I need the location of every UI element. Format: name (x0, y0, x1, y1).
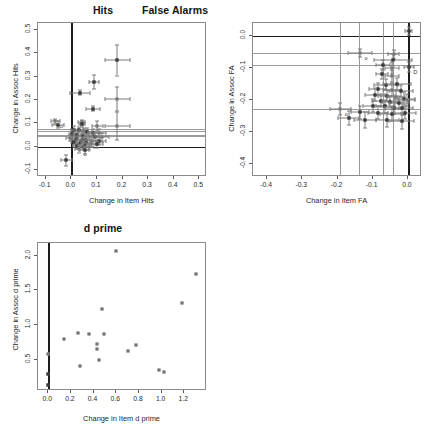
reference-line-horizontal (38, 131, 205, 132)
data-point (95, 342, 98, 345)
axis-tick-x (173, 176, 174, 179)
axis-tick-x (47, 390, 48, 393)
error-bar-cap (91, 128, 95, 129)
error-bar-cap (384, 78, 388, 79)
error-bar-cap (400, 101, 404, 102)
error-bar-cap (384, 106, 385, 110)
data-point (404, 111, 407, 114)
error-bar-cap (100, 107, 101, 111)
error-bar-cap (405, 94, 409, 95)
axis-tick-label-x: 0.3 (142, 181, 151, 188)
error-bar-cap (129, 58, 130, 62)
error-bar-cap (85, 122, 86, 126)
data-point (116, 124, 119, 127)
data-point (339, 107, 342, 110)
axis-title-x: Change in Item Hits (37, 196, 206, 205)
data-point (372, 104, 375, 107)
error-bar-cap (109, 135, 110, 139)
error-bar-cap (368, 111, 369, 115)
data-point (401, 107, 404, 110)
data-point (95, 143, 98, 146)
axis-tick-label-x: 0.1 (91, 181, 100, 188)
error-bar-cap (364, 93, 365, 97)
data-point (390, 75, 393, 78)
error-bar-cap (397, 96, 401, 97)
axis-tick-label-x: 0.5 (194, 181, 203, 188)
error-bar-cap (391, 54, 395, 55)
error-bar-cap (91, 110, 95, 111)
error-bar-cap (376, 82, 380, 83)
error-bar-cap (382, 88, 383, 92)
data-point (347, 116, 350, 119)
error-bar-cap (329, 107, 330, 111)
reference-line-vertical (48, 243, 50, 389)
axis-tick-x (115, 390, 116, 393)
error-bar-cap (97, 128, 101, 129)
axis-tick-label-y: 0.2 (24, 92, 31, 106)
error-bar-cap (363, 112, 367, 113)
error-bar-cap (373, 58, 374, 62)
axis-tick-y (34, 169, 37, 170)
data-point (116, 98, 119, 101)
axis-tick-x (337, 176, 338, 179)
axis-tick-x (147, 176, 148, 179)
axis-tick-label-x: 0.2 (65, 395, 74, 402)
error-bar-cap (390, 70, 394, 71)
error-bar-cap (354, 118, 355, 122)
data-point (373, 93, 376, 96)
reference-line-horizontal (38, 147, 205, 149)
error-bar-cap (98, 80, 99, 84)
axis-tick-y (34, 99, 37, 100)
error-bar-cap (78, 139, 82, 140)
data-point (76, 331, 79, 334)
error-bar-cap (388, 52, 389, 56)
error-bar-cap (358, 105, 362, 106)
error-bar-cap (398, 66, 399, 70)
data-point (134, 344, 137, 347)
axis-tick-y (34, 146, 37, 147)
data-point (194, 272, 197, 275)
axis-tick-label-x: 1.0 (156, 395, 165, 402)
axis-tick-x (70, 176, 71, 179)
error-bar-cap (362, 104, 363, 108)
error-bar-cap (338, 114, 342, 115)
axis-tick-x (161, 390, 162, 393)
data-point (47, 373, 50, 376)
data-point (181, 302, 184, 305)
error-bar-cap (72, 126, 76, 127)
error-bar-cap (115, 45, 119, 46)
error-bar-cap (115, 111, 119, 112)
error-bar-cap (399, 84, 403, 85)
error-bar-cap (102, 124, 103, 128)
error-bar-cap (80, 136, 84, 137)
error-bar-cap (383, 82, 384, 86)
data-point (407, 29, 410, 32)
axis-tick-label-y: -0.1 (239, 59, 246, 73)
axis-tick-label-y: 2.0 (24, 247, 31, 261)
error-bar-cap (83, 147, 87, 148)
error-bar-cap (412, 58, 413, 62)
error-bar-cap (115, 75, 119, 76)
error-bar-cap (376, 106, 380, 107)
axis-tick-y (34, 122, 37, 123)
error-bar-cap (52, 123, 53, 127)
error-bar-cap (85, 107, 86, 111)
error-bar-cap (407, 34, 411, 35)
data-point (162, 370, 165, 373)
error-bar-cap (89, 148, 90, 152)
error-bar-cap (398, 98, 399, 102)
axis-tick-x (301, 176, 302, 179)
reference-line-horizontal (38, 136, 205, 137)
error-bar-cap (82, 142, 86, 143)
data-point (102, 333, 105, 336)
error-bar-cap (407, 72, 411, 73)
error-bar-cap (386, 95, 387, 99)
axis-tick-x (96, 176, 97, 179)
axis-tick-label-x: -0.4 (260, 181, 272, 188)
error-bar-cap (404, 65, 405, 69)
reference-line-vertical (359, 23, 360, 175)
error-bar-cap (129, 124, 130, 128)
error-bar-cap (94, 145, 95, 149)
axis-tick-label-x: 0.4 (168, 181, 177, 188)
axis-tick-label-y: -0.2 (239, 92, 246, 106)
